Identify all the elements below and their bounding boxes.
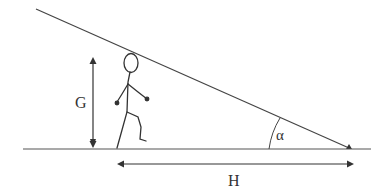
distance-arrow-left-head xyxy=(117,161,124,168)
height-label: G xyxy=(75,94,87,111)
person-hand-back xyxy=(115,101,119,105)
height-arrow-bottom-head xyxy=(90,141,97,148)
distance-label: H xyxy=(228,172,240,189)
incline-line xyxy=(36,9,349,148)
distance-arrow-right-head xyxy=(347,161,354,168)
stick-figure xyxy=(115,54,149,149)
person-hand-front xyxy=(145,97,149,101)
person-leg-front xyxy=(127,112,146,141)
person-arm-front xyxy=(128,84,147,99)
person-arm-back xyxy=(117,84,128,102)
angle-label: α xyxy=(276,127,284,143)
trig-diagram: G H α xyxy=(0,0,391,195)
person-head xyxy=(124,54,138,73)
height-arrow-top-head xyxy=(90,57,97,64)
